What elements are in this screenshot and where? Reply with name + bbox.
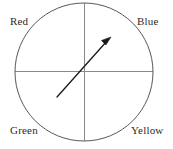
quadrant-label-red: Red [10, 15, 28, 27]
quadrant-label-blue: Blue [137, 15, 159, 27]
quadrant-label-green: Green [10, 124, 38, 136]
spinner-diagram: Red Blue Green Yellow [0, 0, 173, 149]
quadrant-label-yellow: Yellow [131, 124, 163, 136]
pointer-arrowhead-icon [102, 37, 112, 45]
pointer-arrow-shaft [57, 41, 107, 97]
